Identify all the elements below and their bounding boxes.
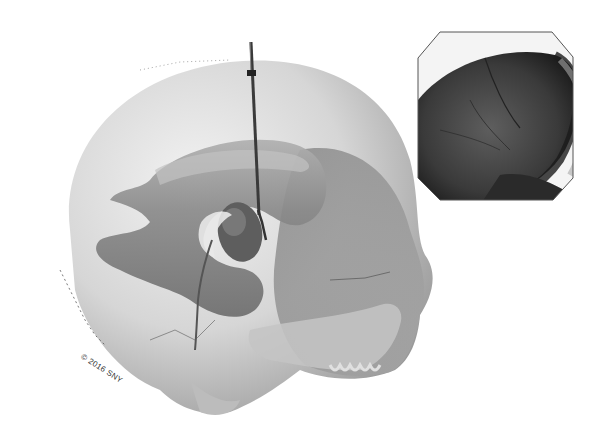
skull-illustration [0,0,609,447]
figure-canvas: © 2016 SNY [0,0,609,447]
endoscopic-inset [418,32,584,205]
